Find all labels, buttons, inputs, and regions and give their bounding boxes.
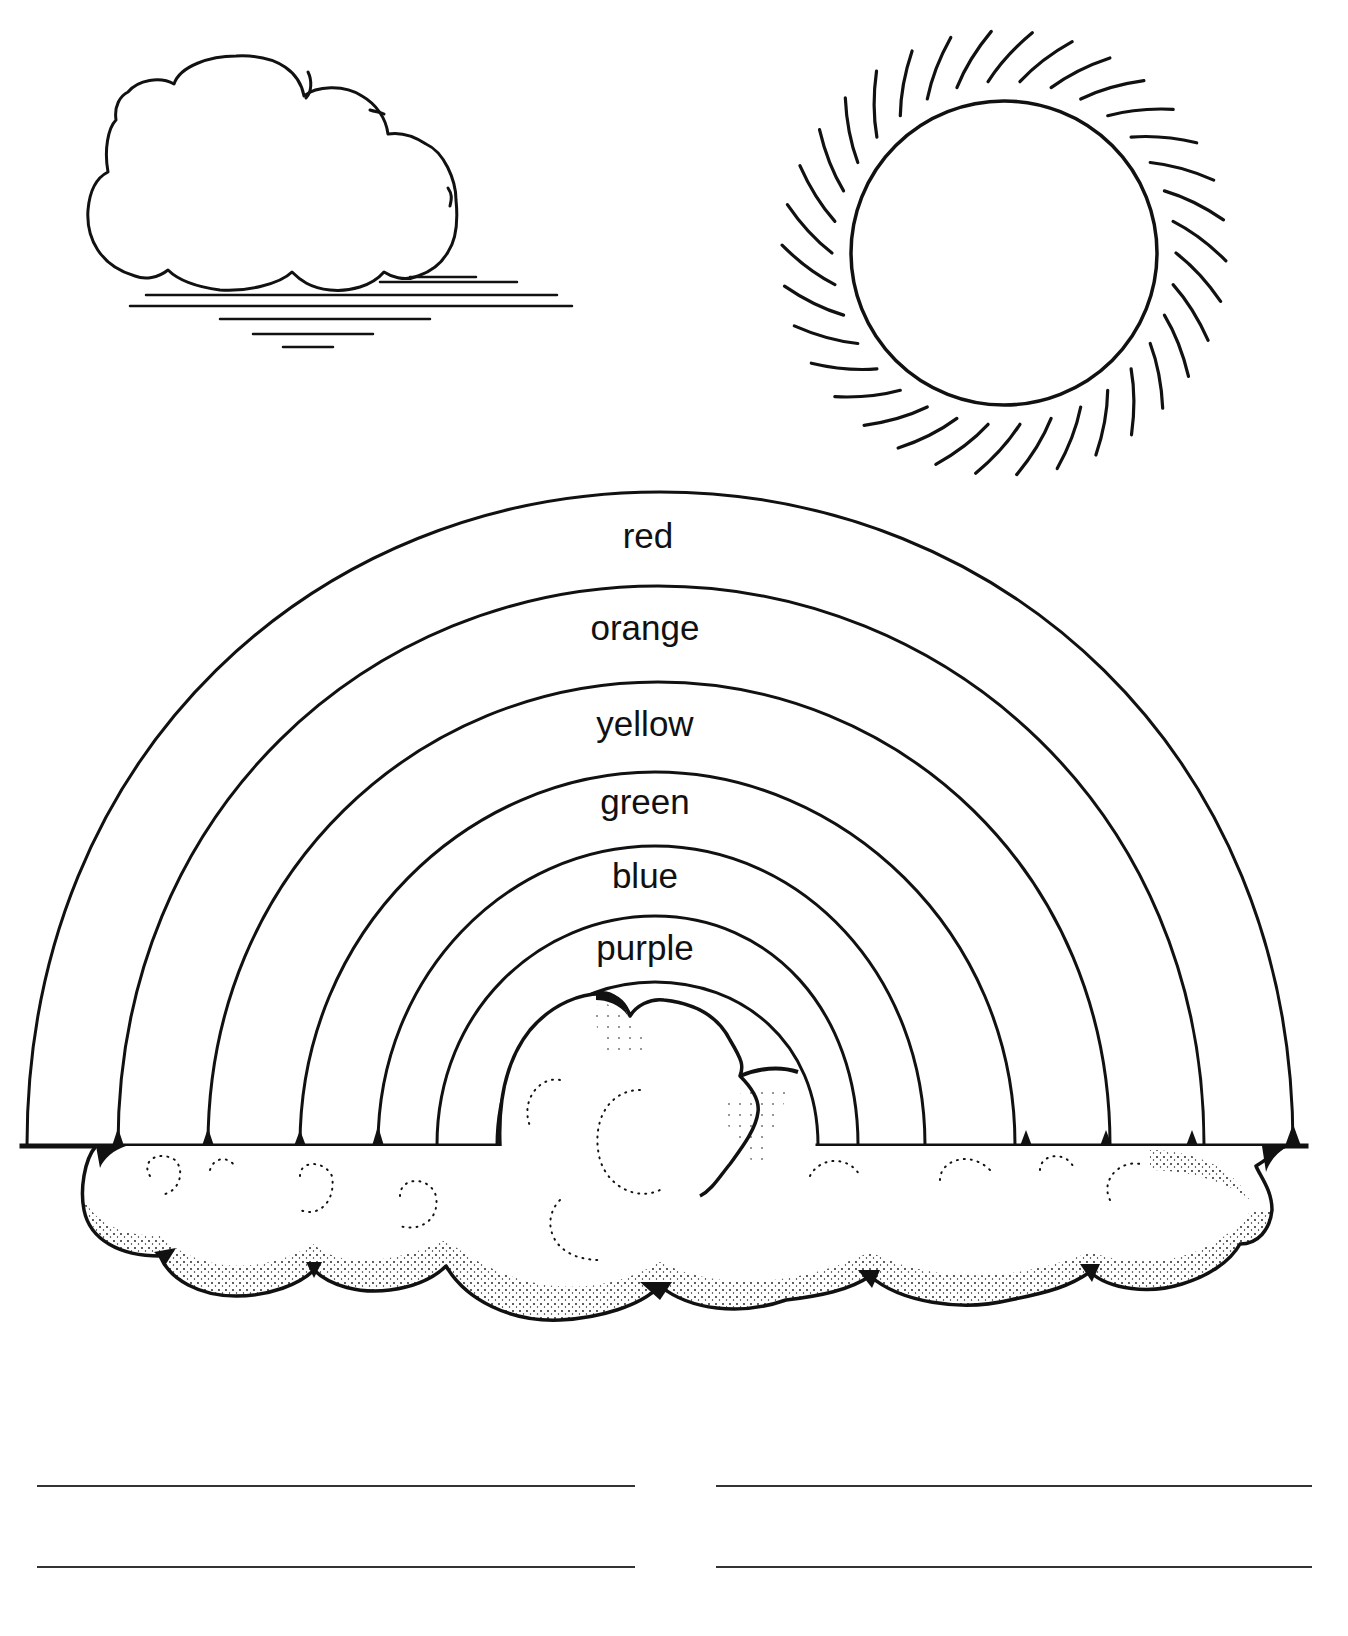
band-label-purple: purple	[495, 930, 795, 965]
band-label-yellow: yellow	[495, 706, 795, 741]
band-label-green: green	[495, 784, 795, 819]
band-label-blue: blue	[495, 858, 795, 893]
answer-line-3[interactable]	[37, 1566, 635, 1568]
answer-line-2[interactable]	[716, 1485, 1312, 1487]
band-label-red: red	[498, 518, 798, 553]
answer-line-1[interactable]	[37, 1485, 635, 1487]
worksheet-page: red orange yellow green blue purple	[0, 0, 1348, 1636]
answer-line-4[interactable]	[716, 1566, 1312, 1568]
band-label-orange: orange	[495, 610, 795, 645]
